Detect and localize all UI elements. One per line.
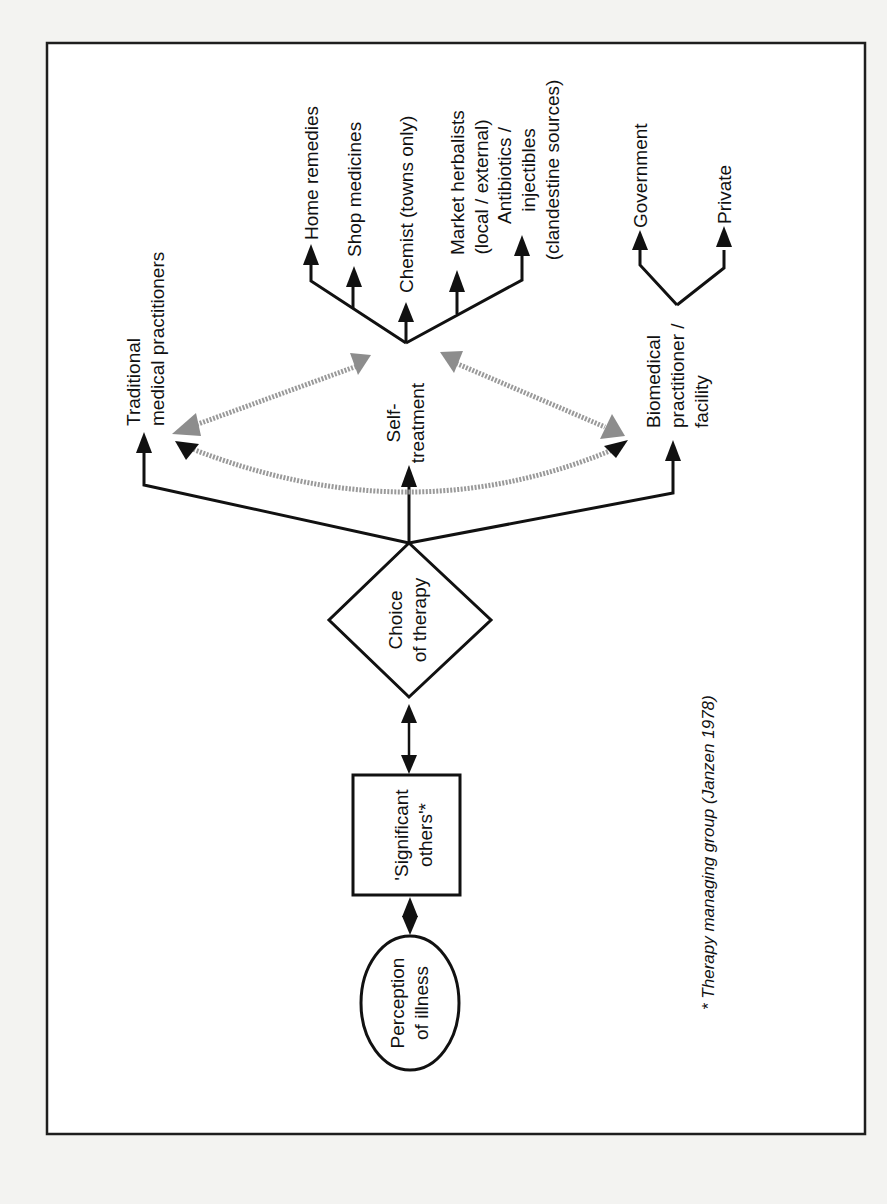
- biomedical-line3: facility: [691, 375, 712, 428]
- start-node-line2: of illness: [411, 966, 432, 1040]
- source-chemist: Chemist (towns only): [396, 116, 417, 293]
- decision-node-line1: Choice: [385, 590, 406, 649]
- biomedical-line1: Biomedical: [643, 335, 664, 428]
- source-chemist-label: Chemist (towns only): [396, 116, 417, 293]
- ellipse-shape: [361, 936, 459, 1070]
- source-market-herbalists-line2: (local / external): [471, 119, 492, 254]
- biomedical-type-government: Government: [630, 123, 651, 228]
- source-home-remedies-label: Home remedies: [301, 106, 322, 240]
- source-antibiotics-line1: Antibiotics /: [494, 126, 515, 224]
- start-node-perception-of-illness: Perception of illness: [361, 936, 459, 1070]
- source-shop-medicines: Shop medicines: [344, 122, 365, 257]
- private-label: Private: [714, 165, 735, 224]
- traditional-line1: Traditional: [123, 338, 144, 426]
- source-shop-medicines-label: Shop medicines: [344, 122, 365, 257]
- group-node-line2: others'*: [415, 802, 436, 866]
- biomedical-type-private: Private: [714, 165, 735, 224]
- self-treatment-line2: treatment: [407, 382, 428, 463]
- source-market-herbalists-line1: Market herbalists: [447, 110, 468, 255]
- group-node-line1: 'Significant: [391, 789, 412, 881]
- decision-node-line2: of therapy: [409, 577, 430, 662]
- group-node-significant-others: 'Significant others'*: [353, 775, 460, 895]
- therapy-choice-flowchart: Perception of illness 'Significant other…: [0, 0, 887, 1204]
- source-antibiotics-line2: injectibles: [518, 128, 539, 211]
- source-home-remedies: Home remedies: [301, 106, 322, 240]
- source-antibiotics-line3: (clandestine sources): [542, 80, 563, 261]
- biomedical-line2: practitioner /: [667, 323, 688, 428]
- traditional-line2: medical practitioners: [147, 252, 168, 426]
- government-label: Government: [630, 123, 651, 228]
- footnote: * Therapy managing group (Janzen 1978): [699, 695, 718, 1010]
- start-node-line1: Perception: [387, 958, 408, 1049]
- self-treatment-line1: Self-: [383, 403, 404, 442]
